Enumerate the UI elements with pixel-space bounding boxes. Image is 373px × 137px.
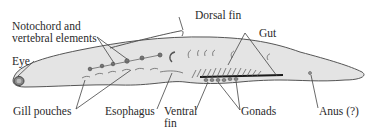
label-esophagus: Esophagus	[105, 105, 155, 117]
diagram-canvas: Notochord and vertebral elements Dorsal …	[0, 0, 373, 137]
label-gonads: Gonads	[241, 105, 276, 117]
label-gut: Gut	[259, 27, 276, 39]
label-notochord: Notochord and vertebral elements	[12, 20, 97, 44]
label-ventral-fin: Ventral fin	[164, 105, 197, 129]
label-dorsal-fin: Dorsal fin	[195, 9, 241, 21]
label-gill-pouches: Gill pouches	[13, 105, 71, 117]
anus-shape	[309, 72, 312, 75]
label-anus: Anus (?)	[319, 105, 359, 117]
label-eye: Eye	[12, 55, 30, 67]
body-outline	[13, 37, 364, 87]
